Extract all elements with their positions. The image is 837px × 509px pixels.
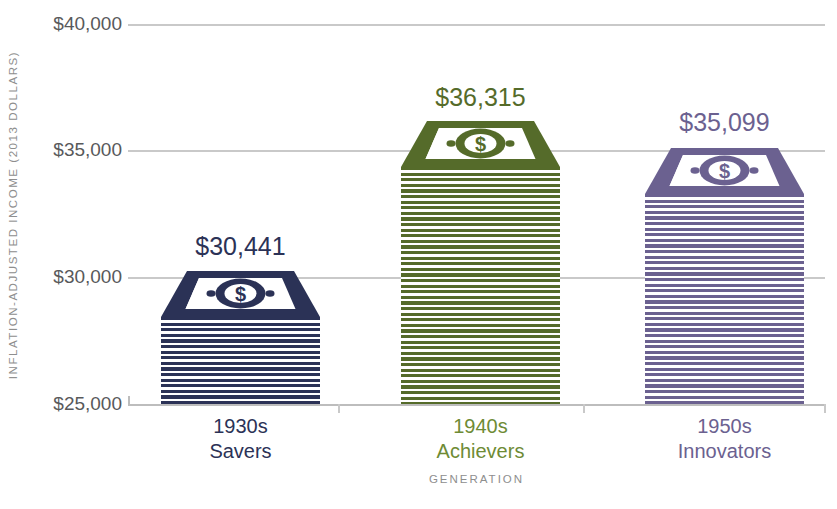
dollar-bill-icon-1930s: $ (161, 271, 320, 317)
bar-body-1940s (401, 167, 560, 404)
svg-text:$: $ (235, 283, 246, 305)
x-label-1950s-line2: Innovators (678, 439, 771, 464)
x-label-1950s-line1: 1950s (678, 414, 771, 439)
x-axis-title: GENERATION (128, 473, 825, 485)
x-label-1930s-line1: 1930s (209, 414, 271, 439)
bar-body-1930s (161, 317, 320, 404)
bar-chart: INFLATION-ADJUSTED INCOME (2013 DOLLARS)… (0, 0, 837, 509)
dollar-bill-icon-1940s: $ (401, 121, 560, 167)
bar-body-1950s (645, 194, 804, 404)
bar-group-1950s-innovators[interactable]: $35,099 $ 1950s Innovators (645, 0, 804, 509)
svg-text:$: $ (719, 160, 730, 182)
bar-value-label-1950s: $35,099 (679, 108, 769, 137)
x-label-1940s-achievers: 1940s Achievers (437, 414, 525, 464)
x-label-1950s-innovators: 1950s Innovators (678, 414, 771, 464)
x-label-1930s-line2: Savers (209, 439, 271, 464)
dollar-bill-icon-1950s: $ (645, 148, 804, 194)
x-label-1940s-line2: Achievers (437, 439, 525, 464)
svg-text:$: $ (475, 133, 486, 155)
bar-value-label-1930s: $30,441 (195, 232, 285, 261)
bars-layer: $30,441 $ 1930s Savers (0, 0, 837, 509)
x-label-1930s-savers: 1930s Savers (209, 414, 271, 464)
x-label-1940s-line1: 1940s (437, 414, 525, 439)
bar-group-1930s-savers[interactable]: $30,441 $ 1930s Savers (161, 0, 320, 509)
bar-group-1940s-achievers[interactable]: $36,315 $ 1940s Achievers (401, 0, 560, 509)
bar-value-label-1940s: $36,315 (435, 83, 525, 112)
